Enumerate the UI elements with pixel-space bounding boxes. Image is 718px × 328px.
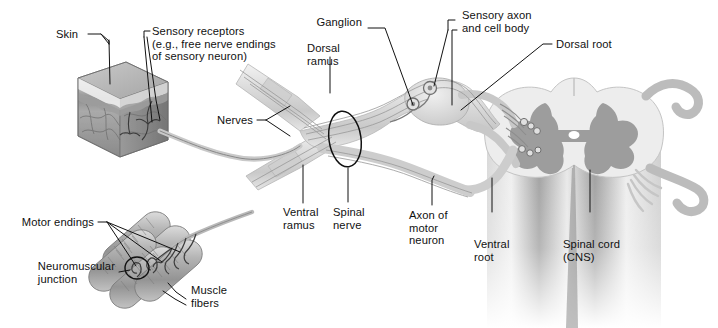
label-neuromuscular-junction: Neuromuscular junction — [38, 260, 115, 285]
label-axon-of-motor-neuron: Axon of motor neuron — [409, 209, 448, 247]
label-sensory-axon-and-cell-body: Sensory axon and cell body — [462, 9, 532, 34]
label-ventral-ramus: Ventral ramus — [283, 206, 319, 231]
label-nerves: Nerves — [217, 114, 253, 127]
label-skin: Skin — [56, 28, 78, 41]
label-dorsal-root: Dorsal root — [556, 38, 612, 51]
label-muscle-fibers: Muscle fibers — [191, 284, 227, 309]
label-ventral-root: Ventral root — [474, 238, 510, 263]
label-ganglion: Ganglion — [316, 16, 362, 29]
sensory-nerve-fiber — [160, 131, 300, 159]
figure-canvas: Skin Sensory receptors (e.g., free nerve… — [0, 0, 718, 328]
central-canal — [569, 131, 580, 139]
label-spinal-nerve: Spinal nerve — [333, 206, 365, 231]
label-motor-endings: Motor endings — [22, 216, 94, 229]
label-sensory-receptors: Sensory receptors (e.g., free nerve endi… — [152, 25, 276, 63]
label-spinal-cord: Spinal cord (CNS) — [563, 238, 620, 263]
skin-block — [78, 62, 168, 157]
label-dorsal-ramus: Dorsal ramus — [307, 42, 340, 67]
